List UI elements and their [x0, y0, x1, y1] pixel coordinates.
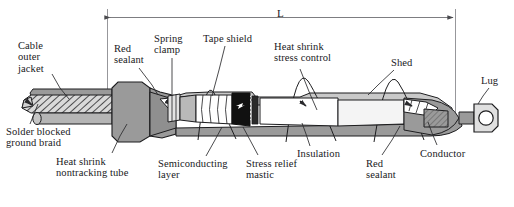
cable-assembly [22, 89, 112, 125]
label-red-sealant-right: Red sealant [366, 158, 396, 181]
dimension-label-L: L [277, 7, 284, 19]
label-cable-outer-jacket: Cable outer jacket [18, 40, 44, 74]
label-conductor: Conductor [420, 148, 465, 159]
label-heat-shrink-stress-control: Heat shrink stress control [274, 41, 331, 64]
label-shed: Shed [391, 57, 412, 68]
label-tape-shield: Tape shield [203, 33, 252, 44]
label-solder-blocked-ground-braid: Solder blocked ground braid [6, 126, 71, 149]
termination-nose [404, 98, 474, 135]
stress-relief-mastic-block [232, 93, 258, 126]
label-spring-clamp: Spring clamp [154, 33, 183, 56]
insulation-chamber [260, 98, 404, 126]
leader-tape-shield [212, 46, 225, 96]
label-heat-shrink-nontracking-tube: Heat shrink nontracking tube [56, 156, 128, 179]
leader-lug [478, 88, 489, 104]
label-semiconducting-layer: Semiconducting layer [158, 158, 228, 181]
label-red-sealant-left: Red sealant [114, 43, 144, 66]
diagram-canvas: Cable outer jacketRed sealantSpring clam… [0, 0, 514, 207]
lug-terminal [474, 104, 498, 132]
label-insulation: Insulation [297, 148, 340, 159]
label-lug: Lug [481, 75, 498, 86]
label-stress-relief-mastic: Stress relief mastic [246, 158, 297, 181]
